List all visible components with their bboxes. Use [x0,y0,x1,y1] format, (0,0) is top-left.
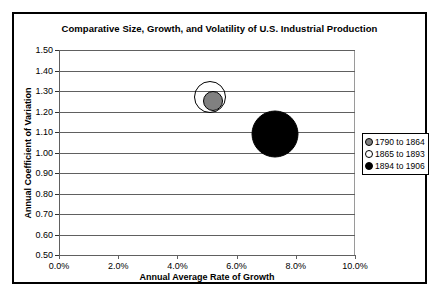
legend-item-label: 1790 to 1864 [375,137,425,147]
chart-legend: 1790 to 18641865 to 18931894 to 1906 [362,133,429,175]
x-tick-label: 0.0% [49,261,70,271]
legend-item-2[interactable]: 1865 to 1893 [365,148,425,160]
x-tick-label: 6.0% [226,261,247,271]
legend-item-label: 1865 to 1893 [375,149,425,159]
legend-marker-icon [365,150,373,158]
x-tick-label: 8.0% [286,261,307,271]
y-tick [55,153,59,154]
gridline [59,173,355,174]
legend-marker-icon [365,162,373,170]
data-bubble-1 [203,91,223,111]
x-tick [177,255,178,259]
gridline [59,50,355,51]
x-tick [355,255,356,259]
y-tick [55,173,59,174]
y-tick-label: 1.00 [35,148,53,158]
y-tick-label: 1.30 [35,86,53,96]
x-tick [59,255,60,259]
chart-frame: Comparative Size, Growth, and Volatility… [12,12,427,284]
gridline [59,255,355,256]
x-tick [296,255,297,259]
y-tick-label: 0.50 [35,250,53,260]
y-tick-label: 0.80 [35,189,53,199]
legend-marker-icon [365,138,373,146]
y-axis-title: Annual Coefficient of Variation [20,50,34,255]
y-tick [55,91,59,92]
y-axis-title-label: Annual Coefficient of Variation [22,87,32,218]
x-axis-title: Annual Average Rate of Growth [59,272,355,282]
y-tick-label: 0.60 [35,230,53,240]
legend-item-label: 1894 to 1906 [375,161,425,171]
y-tick-label: 1.20 [35,107,53,117]
x-tick-label: 10.0% [342,261,368,271]
y-tick-label: 1.50 [35,45,53,55]
gridline [59,132,355,133]
legend-item-3[interactable]: 1894 to 1906 [365,160,425,172]
y-tick [55,112,59,113]
y-tick-label: 0.90 [35,168,53,178]
gridline [59,153,355,154]
y-tick [55,235,59,236]
chart-title: Comparative Size, Growth, and Volatility… [14,23,425,34]
plot-area: 0.500.600.700.800.901.001.101.201.301.40… [59,50,355,255]
data-bubble-3 [252,111,299,158]
gridline [59,235,355,236]
y-tick [55,214,59,215]
legend-item-1[interactable]: 1790 to 1864 [365,136,425,148]
gridline [59,71,355,72]
x-tick-label: 2.0% [108,261,129,271]
x-tick-label: 4.0% [167,261,188,271]
x-tick [237,255,238,259]
y-tick-label: 0.70 [35,209,53,219]
y-tick-label: 1.40 [35,66,53,76]
y-tick [55,50,59,51]
y-tick [55,194,59,195]
gridline [59,194,355,195]
x-tick [118,255,119,259]
y-tick [55,71,59,72]
y-tick-label: 1.10 [35,127,53,137]
y-tick [55,132,59,133]
gridline [59,214,355,215]
